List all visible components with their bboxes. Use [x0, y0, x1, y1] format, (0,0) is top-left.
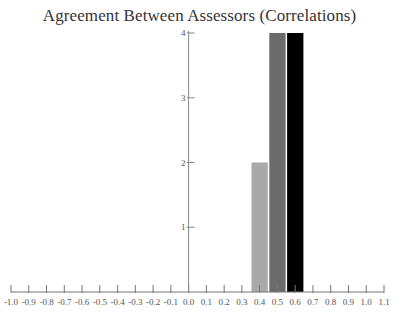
x-tick-label: 0.4 — [254, 297, 266, 307]
x-tick-label: 0.1 — [201, 297, 212, 307]
x-tick-label: -0.8 — [39, 297, 54, 307]
y-tick-label: 3 — [181, 93, 186, 103]
x-tick-label: -0.3 — [128, 297, 143, 307]
x-tick-label: 0.7 — [307, 297, 319, 307]
y-tick-label: 2 — [181, 158, 186, 168]
x-tick-label: 0.2 — [219, 297, 230, 307]
x-tick-label: 0.3 — [236, 297, 248, 307]
x-tick-label: 1.1 — [378, 297, 389, 307]
bar-0.5 — [269, 33, 285, 292]
x-tick-label: -0.2 — [146, 297, 160, 307]
y-tick-label: 1 — [181, 222, 186, 232]
x-tick-label: 0.5 — [272, 297, 284, 307]
x-tick-label: -0.9 — [22, 297, 37, 307]
x-tick-label: 0.8 — [325, 297, 337, 307]
x-tick-label: -0.1 — [164, 297, 178, 307]
y-tick-label: 4 — [181, 28, 186, 38]
x-tick-label: -0.6 — [75, 297, 90, 307]
x-tick-label: 0.0 — [183, 297, 195, 307]
x-tick-label: 1.0 — [361, 297, 373, 307]
x-tick-label: 0.6 — [290, 297, 302, 307]
x-tick-label: -1.0 — [4, 297, 19, 307]
bar-0.6 — [287, 33, 303, 292]
bar-chart: -1.0-0.9-0.8-0.7-0.6-0.5-0.4-0.3-0.2-0.1… — [0, 0, 399, 319]
x-tick-label: -0.7 — [57, 297, 72, 307]
bar-0.4 — [252, 163, 268, 293]
x-tick-label: 0.9 — [343, 297, 355, 307]
x-tick-label: -0.5 — [93, 297, 108, 307]
x-tick-label: -0.4 — [110, 297, 125, 307]
